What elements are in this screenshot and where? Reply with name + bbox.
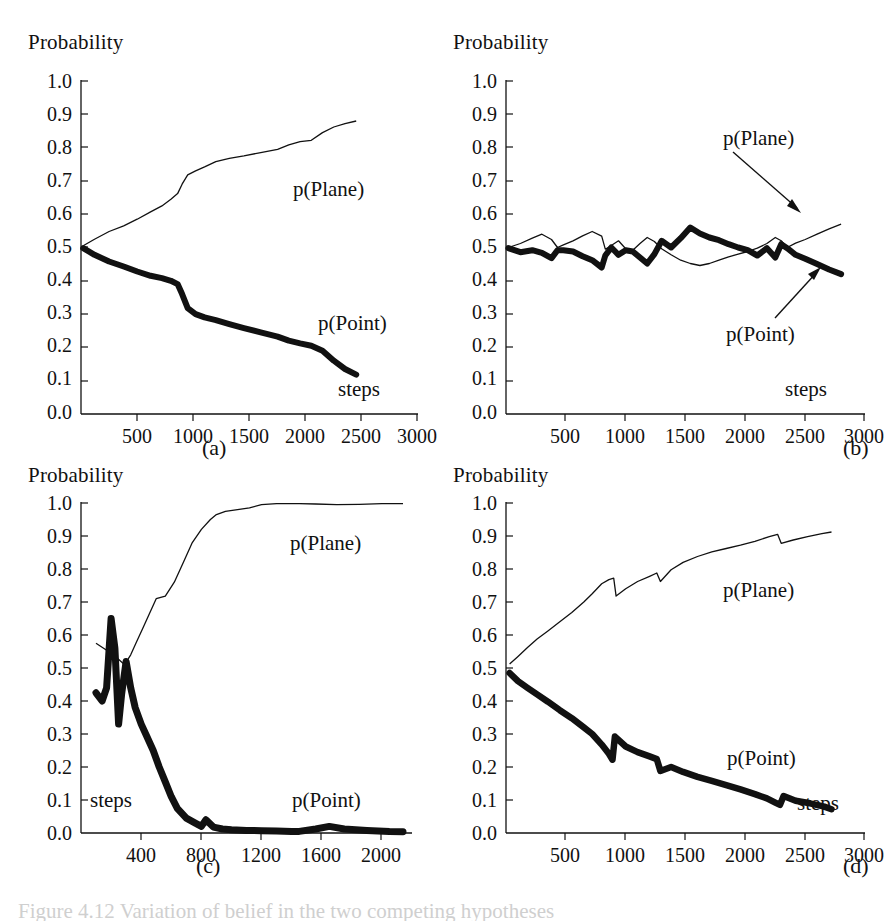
chart-panel-d: Probability (d) 1.0 0.9 0.8 0.7 0.6 0.5 … [445, 455, 890, 915]
y-tick-label: 0.3 [472, 723, 497, 745]
x-tick-label: 1600 [301, 844, 341, 866]
x-axis-title-b: steps [785, 377, 827, 401]
annotation-arrow-point [775, 267, 821, 318]
x-tick-label: 1500 [229, 425, 269, 447]
chart-panel-b: Probability (b) 1.0 0.9 0.8 0.7 0.6 0.5 … [445, 0, 890, 460]
y-tick-label: 0.6 [472, 202, 497, 224]
series-line-point [508, 228, 841, 275]
x-tick-label: 1500 [665, 844, 705, 866]
y-tick-label: 1.0 [47, 70, 72, 92]
y-tick-label: 1.0 [472, 492, 497, 514]
chart-panel-c: Probability (c) 1.0 0.9 0.8 0.7 0.6 0.5 … [0, 455, 445, 915]
x-axis-ticks [565, 414, 864, 421]
series-label-point: p(Point) [726, 322, 795, 346]
y-tick-label: 0.5 [47, 657, 72, 679]
y-tick-label: 0.8 [472, 136, 497, 158]
x-tick-label: 2500 [785, 844, 825, 866]
series-line-plane [96, 504, 403, 665]
y-tick-label: 0.6 [472, 624, 497, 646]
x-tick-label: 500 [550, 425, 580, 447]
y-tick-label: 0.7 [47, 169, 72, 191]
y-tick-label: 0.7 [47, 591, 72, 613]
x-axis-title-d: steps [797, 791, 839, 815]
x-tick-label: 2500 [785, 425, 825, 447]
y-tick-label: 0.0 [472, 822, 497, 844]
y-tick-label: 0.4 [47, 690, 72, 712]
y-tick-label: 0.1 [472, 367, 497, 389]
series-label-plane: p(Plane) [723, 578, 794, 602]
y-tick-label: 0.5 [472, 657, 497, 679]
chart-panel-a: Probability (a) 1.0 0.9 0.8 0.7 0.6 0.5 … [0, 0, 445, 460]
x-tick-label: 1000 [605, 425, 645, 447]
y-tick-label: 0.9 [47, 525, 72, 547]
y-tick-label: 0.1 [47, 367, 72, 389]
y-axis-ticks [506, 503, 513, 800]
plot-area-b: 1.0 0.9 0.8 0.7 0.6 0.5 0.4 0.3 0.2 0.1 … [445, 0, 890, 460]
x-tick-label: 500 [122, 425, 152, 447]
y-tick-label: 0.6 [47, 202, 72, 224]
x-tick-label: 1000 [173, 425, 213, 447]
x-axis-title-c: steps [90, 788, 132, 812]
y-tick-label: 0.2 [47, 334, 72, 356]
x-tick-label: 2000 [285, 425, 325, 447]
x-tick-label: 500 [550, 844, 580, 866]
y-tick-label: 0.0 [472, 401, 497, 423]
y-tick-label: 0.2 [472, 334, 497, 356]
y-axis-ticks [506, 81, 513, 381]
plot-area-c: 1.0 0.9 0.8 0.7 0.6 0.5 0.4 0.3 0.2 0.1 … [0, 455, 445, 875]
annotation-arrow-plane [733, 152, 801, 213]
y-tick-label: 0.3 [47, 301, 72, 323]
series-label-plane: p(Plane) [290, 531, 361, 555]
y-tick-label: 0.8 [47, 136, 72, 158]
y-tick-label: 0.9 [472, 103, 497, 125]
y-tick-label: 0.4 [47, 268, 72, 290]
y-tick-label: 0.7 [472, 591, 497, 613]
series-label-point: p(Point) [292, 788, 361, 812]
x-tick-label: 3000 [397, 425, 437, 447]
y-tick-label: 0.6 [47, 624, 72, 646]
y-tick-label: 0.0 [47, 401, 72, 423]
x-tick-label: 3000 [844, 425, 884, 447]
figure-caption: Figure 4.12 Variation of belief in the t… [18, 902, 878, 921]
x-tick-label: 2000 [361, 844, 401, 866]
series-label-plane: p(Plane) [293, 177, 364, 201]
x-axis-ticks [137, 414, 417, 421]
x-axis-title-a: steps [338, 377, 380, 401]
series-label-plane: p(Plane) [723, 126, 794, 150]
series-label-point: p(Point) [727, 746, 796, 770]
x-tick-label: 800 [186, 844, 216, 866]
y-tick-label: 0.1 [47, 789, 72, 811]
x-tick-label: 1200 [241, 844, 281, 866]
series-line-point [510, 673, 832, 809]
series-line-point [83, 248, 356, 375]
x-tick-label: 2000 [725, 425, 765, 447]
series-label-point: p(Point) [318, 311, 387, 335]
y-tick-label: 0.8 [472, 558, 497, 580]
y-tick-label: 0.9 [472, 525, 497, 547]
x-tick-label: 3000 [844, 844, 884, 866]
plot-area-d: 1.0 0.9 0.8 0.7 0.6 0.5 0.4 0.3 0.2 0.1 … [445, 455, 890, 875]
y-tick-label: 0.5 [472, 235, 497, 257]
y-tick-label: 0.9 [47, 103, 72, 125]
y-tick-label: 0.8 [47, 558, 72, 580]
y-tick-label: 0.3 [47, 723, 72, 745]
y-axis-ticks [81, 503, 88, 800]
y-tick-label: 0.0 [47, 822, 72, 844]
y-tick-label: 0.2 [47, 756, 72, 778]
y-tick-label: 0.3 [472, 301, 497, 323]
x-axis-ticks [565, 833, 864, 840]
y-axis-ticks [81, 81, 88, 381]
y-tick-label: 1.0 [472, 70, 497, 92]
plot-area-a: 1.0 0.9 0.8 0.7 0.6 0.5 0.4 0.3 0.2 0.1 … [0, 0, 445, 460]
x-tick-label: 1000 [605, 844, 645, 866]
y-tick-label: 1.0 [47, 492, 72, 514]
y-tick-label: 0.7 [472, 169, 497, 191]
x-tick-label: 1500 [665, 425, 705, 447]
x-tick-label: 2000 [725, 844, 765, 866]
x-tick-label: 400 [126, 844, 156, 866]
y-tick-label: 0.2 [472, 756, 497, 778]
figure-container: Probability (a) 1.0 0.9 0.8 0.7 0.6 0.5 … [0, 0, 890, 921]
y-tick-label: 0.1 [472, 789, 497, 811]
y-tick-label: 0.4 [472, 690, 497, 712]
y-tick-label: 0.4 [472, 268, 497, 290]
